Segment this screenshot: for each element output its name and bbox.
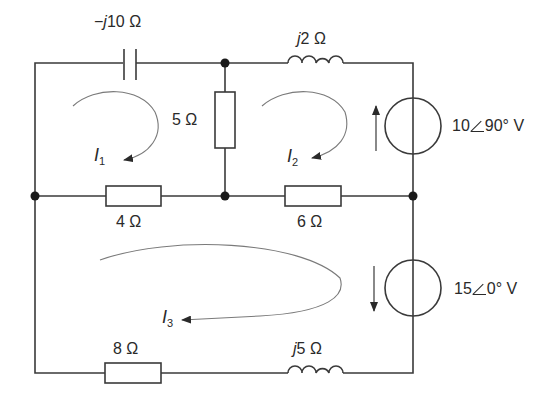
source-top-angle: 90° V	[485, 117, 524, 134]
node-top-middle	[221, 59, 230, 68]
resistor-5-label: 5 Ω	[172, 112, 197, 128]
circuit-diagram: −j10 Ω j2 Ω 5 Ω 4 Ω 6 Ω 8 Ω j5 Ω 1090° V…	[0, 0, 558, 404]
wire-top-right	[343, 63, 413, 196]
mesh-arrow-i2-icon	[262, 92, 347, 158]
inductor-top-label: j2 Ω	[297, 31, 326, 47]
current-subscript: 1	[99, 155, 105, 167]
node-middle	[221, 192, 230, 201]
source-bottom-label: 150° V	[454, 281, 517, 297]
resistor-8-label: 8 Ω	[113, 341, 138, 357]
inductor-bottom-label: j5 Ω	[293, 341, 322, 357]
source-top-label: 1090° V	[452, 118, 524, 134]
wire-top-left	[35, 63, 123, 196]
resistor-6-label: 6 Ω	[297, 214, 322, 230]
current-subscript: 3	[167, 317, 173, 329]
source-bottom-angle: 0° V	[487, 280, 517, 297]
capacitor-value: 10 Ω	[107, 13, 141, 30]
current-subscript: 2	[292, 156, 298, 168]
mesh-arrow-i3-icon	[100, 245, 341, 320]
resistor-6-icon	[285, 186, 341, 206]
inductor-bottom-value: 5 Ω	[297, 340, 322, 357]
angle-icon	[471, 119, 484, 132]
resistor-4-label: 4 Ω	[116, 214, 141, 230]
circuit-schematic	[0, 0, 558, 404]
angle-icon	[473, 282, 486, 295]
capacitor-label: −j10 Ω	[94, 14, 141, 30]
resistor-8-icon	[105, 363, 161, 383]
mesh-current-i2-label: I2	[287, 147, 298, 165]
node-right	[409, 192, 418, 201]
source-top-magnitude: 10	[452, 117, 470, 134]
minus-sign: −	[94, 13, 103, 30]
node-left	[31, 192, 40, 201]
inductor-top-value: 2 Ω	[301, 30, 326, 47]
mesh-current-i1-label: I1	[94, 146, 105, 164]
resistor-4-icon	[106, 186, 161, 206]
inductor-top-icon	[288, 56, 343, 63]
resistor-5-icon	[215, 92, 235, 148]
capacitor-icon	[124, 49, 136, 80]
mesh-current-i3-label: I3	[162, 308, 173, 326]
source-bottom-magnitude: 15	[454, 280, 472, 297]
mesh-arrow-i1-icon	[73, 92, 158, 160]
inductor-bottom-icon	[288, 366, 343, 373]
